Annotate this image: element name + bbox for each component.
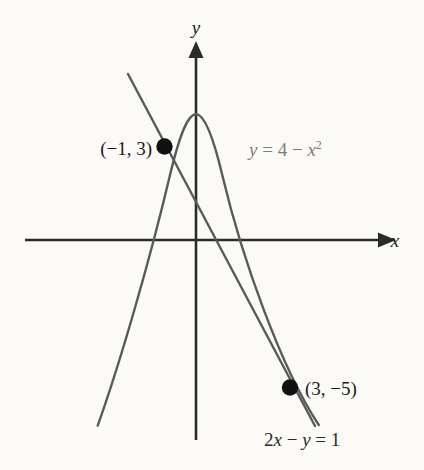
line-eq-coefficient: 2 bbox=[264, 429, 274, 450]
point-label-upper: (−1, 3) bbox=[100, 138, 152, 160]
point-label-lower: (3, −5) bbox=[305, 378, 357, 400]
parabola-eq-y: y bbox=[247, 139, 258, 160]
y-axis-label: y bbox=[190, 17, 201, 38]
x-axis-label: x bbox=[390, 230, 400, 251]
line-eq-equals: = 1 bbox=[311, 429, 341, 450]
line-eq-minus: − bbox=[282, 429, 302, 450]
line-equation-label: 2x − y = 1 bbox=[264, 429, 340, 450]
parabola-eq-exponent: 2 bbox=[316, 138, 322, 152]
parabola-eq-middle: = 4 − bbox=[257, 139, 307, 160]
parabola-equation-label: y = 4 − x2 bbox=[247, 138, 322, 160]
coordinate-plane-figure: x y (−1, 3) (3, −5) y = 4 − x2 2x − y = … bbox=[0, 0, 424, 470]
intersection-point-upper bbox=[156, 138, 172, 154]
intersection-point-lower bbox=[282, 379, 298, 395]
line-eq-y: y bbox=[300, 429, 311, 450]
figure-background bbox=[0, 0, 424, 470]
